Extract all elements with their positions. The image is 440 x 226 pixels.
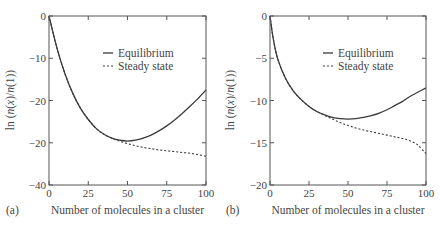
x-tick-label: 25 bbox=[304, 187, 316, 199]
y-tick-label: −10 bbox=[29, 52, 47, 64]
x-tick-label: 50 bbox=[343, 187, 355, 199]
x-tick-label: 0 bbox=[46, 187, 52, 199]
y-axis-label-a: ln (n(x)/n(1)) bbox=[4, 70, 17, 131]
plot-area-a bbox=[49, 16, 206, 156]
y-tick-label: −20 bbox=[250, 179, 268, 191]
x-tick-label: 75 bbox=[382, 187, 394, 199]
legend-steady-label: Steady state bbox=[338, 60, 393, 73]
figure: 02550751000−10−20−20−40 Equilibrium Stea… bbox=[0, 0, 440, 226]
axes-frame-b bbox=[270, 16, 426, 185]
panel-label-a: (a) bbox=[6, 204, 19, 217]
y-tick-label: 0 bbox=[262, 10, 268, 22]
ticks-a: 02550751000−10−20−20−40 bbox=[29, 10, 215, 199]
y-tick-label: −5 bbox=[255, 52, 267, 64]
panel-a: 02550751000−10−20−20−40 Equilibrium Stea… bbox=[4, 10, 215, 217]
y-tick-label: −20 bbox=[29, 95, 47, 107]
y-tick-label: −40 bbox=[29, 179, 47, 191]
steady-state-line bbox=[270, 16, 426, 154]
legend-a: Equilibrium Steady state bbox=[103, 47, 174, 73]
panel-b: 02550751000−5−10−15−20 Equilibrium Stead… bbox=[224, 10, 435, 217]
plot-area-b bbox=[270, 16, 426, 154]
x-tick-label: 25 bbox=[83, 187, 95, 199]
x-tick-label: 100 bbox=[418, 187, 435, 199]
x-tick-label: 75 bbox=[161, 187, 173, 199]
y-axis-label-b: ln (n(x)/n(1)) bbox=[224, 70, 237, 131]
y-tick-label: −20 bbox=[29, 137, 47, 149]
y-tick-label: 0 bbox=[41, 10, 47, 22]
equilibrium-line bbox=[49, 16, 206, 141]
legend-equilibrium-label: Equilibrium bbox=[118, 47, 174, 60]
x-axis-label-a: Number of molecules in a cluster bbox=[51, 204, 204, 216]
x-axis-label-b: Number of molecules in a cluster bbox=[272, 204, 425, 216]
x-tick-label: 50 bbox=[122, 187, 134, 199]
x-tick-label: 0 bbox=[267, 187, 273, 199]
legend-b: Equilibrium Steady state bbox=[323, 47, 394, 73]
axes-frame-a bbox=[49, 16, 206, 185]
steady-state-line bbox=[49, 16, 206, 156]
panel-label-b: (b) bbox=[226, 204, 240, 217]
ticks-b: 02550751000−5−10−15−20 bbox=[250, 10, 435, 199]
y-tick-label: −15 bbox=[250, 137, 268, 149]
y-tick-label: −10 bbox=[250, 95, 268, 107]
legend-equilibrium-label: Equilibrium bbox=[338, 47, 394, 60]
legend-steady-label: Steady state bbox=[118, 60, 173, 73]
x-tick-label: 100 bbox=[198, 187, 215, 199]
